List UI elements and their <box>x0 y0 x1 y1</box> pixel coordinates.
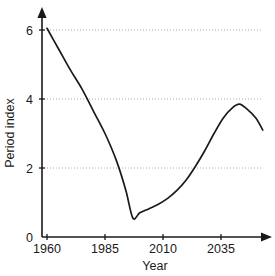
x-tick-label-1960: 1960 <box>33 242 61 256</box>
y-tick-labels: 6 4 2 0 <box>26 24 33 245</box>
x-tick-label-1985: 1985 <box>91 242 119 256</box>
x-tick-label-2035: 2035 <box>207 242 235 256</box>
line-chart: 6 4 2 0 1960 1985 2010 2035 Year Period … <box>0 0 275 276</box>
right-arrow-icon <box>261 232 272 241</box>
y-tick-label-6: 6 <box>26 24 33 38</box>
x-axis-title: Year <box>142 259 167 273</box>
y-axis-title: Period index <box>3 98 17 168</box>
y-tick-label-0: 0 <box>26 231 33 245</box>
x-tick-labels: 1960 1985 2010 2035 <box>33 242 235 256</box>
gridlines-group <box>47 30 262 168</box>
up-arrow-icon <box>37 7 46 18</box>
x-axis <box>42 232 272 241</box>
y-axis <box>37 7 46 237</box>
x-tick-label-2010: 2010 <box>149 242 177 256</box>
data-series-line <box>47 28 263 219</box>
chart-container: 6 4 2 0 1960 1985 2010 2035 Year Period … <box>0 0 275 276</box>
y-tick-label-2: 2 <box>26 162 33 176</box>
y-tick-label-4: 4 <box>26 93 33 107</box>
